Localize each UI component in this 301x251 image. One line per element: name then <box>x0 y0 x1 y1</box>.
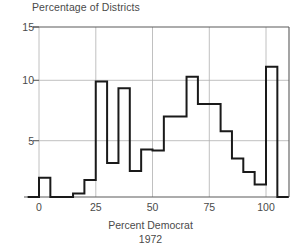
y-tick-label-15: 15 <box>22 21 34 33</box>
y-tick-label-10: 10 <box>22 74 34 86</box>
x-tick-label-75: 75 <box>203 201 215 213</box>
x-axis-label: Percent Democrat <box>0 219 301 231</box>
plot-area <box>0 0 301 251</box>
histogram-outline <box>28 67 289 197</box>
x-axis-label-year: 1972 <box>0 233 301 245</box>
x-tick-label-100: 100 <box>257 201 275 213</box>
y-tick-label-5: 5 <box>28 135 34 147</box>
x-tick-label-25: 25 <box>90 201 102 213</box>
y-axis-tick-labels: 15 10 5 <box>0 0 34 251</box>
x-tick-label-50: 50 <box>147 201 159 213</box>
x-tick-label-0: 0 <box>36 201 42 213</box>
chart-figure: Percentage of Districts 15 10 5 0 25 50 … <box>0 0 301 251</box>
chart-title: Percentage of Districts <box>32 1 140 13</box>
